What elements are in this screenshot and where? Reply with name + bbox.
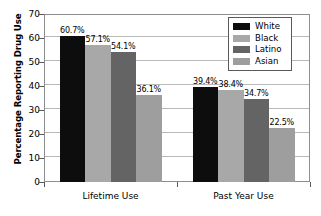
bar xyxy=(193,87,219,182)
bar-value-label: 39.4% xyxy=(193,77,217,86)
legend-label-latino: Latino xyxy=(255,44,282,55)
legend-swatch-white xyxy=(233,23,250,30)
legend-swatch-latino xyxy=(233,46,250,53)
bar-value-label: 57.1% xyxy=(86,35,110,44)
bar-value-label: 22.5% xyxy=(270,118,294,127)
legend: White Black Latino Asian xyxy=(228,17,292,71)
legend-swatch-asian xyxy=(233,58,250,65)
legend-swatch-black xyxy=(233,35,250,42)
x-category-label: Past Year Use xyxy=(213,191,273,201)
legend-label-asian: Asian xyxy=(255,56,278,67)
y-tick-label: 30 xyxy=(16,105,40,115)
y-tick-label: 10 xyxy=(16,153,40,163)
bar xyxy=(136,95,162,182)
y-tick-label: 0 xyxy=(16,177,40,187)
bar xyxy=(244,99,270,182)
y-tick-label: 50 xyxy=(16,57,40,67)
legend-item-asian: Asian xyxy=(233,56,288,67)
y-tick-label: 70 xyxy=(16,9,40,19)
legend-label-white: White xyxy=(255,21,280,32)
legend-item-latino: Latino xyxy=(233,44,288,55)
x-tick-mark xyxy=(44,182,45,187)
bar xyxy=(85,45,111,182)
y-tick-label: 20 xyxy=(16,129,40,139)
bar xyxy=(60,36,86,182)
x-category-label: Lifetime Use xyxy=(82,191,138,201)
legend-label-black: Black xyxy=(255,33,278,44)
bar-value-label: 54.1% xyxy=(111,42,135,51)
y-tick-label: 40 xyxy=(16,81,40,91)
bar xyxy=(111,52,137,182)
bar xyxy=(218,90,244,182)
legend-item-white: White xyxy=(233,21,288,32)
x-tick-mark xyxy=(310,182,311,187)
bar xyxy=(269,128,295,182)
bar-value-label: 38.4% xyxy=(219,80,243,89)
x-tick-mark xyxy=(177,182,178,187)
bar-chart: Percentage Reporting Drug Use 0102030405… xyxy=(0,0,321,216)
bar-value-label: 60.7% xyxy=(60,26,84,35)
bar-value-label: 34.7% xyxy=(244,89,268,98)
bar-value-label: 36.1% xyxy=(137,85,161,94)
y-tick-label: 60 xyxy=(16,33,40,43)
legend-item-black: Black xyxy=(233,33,288,44)
